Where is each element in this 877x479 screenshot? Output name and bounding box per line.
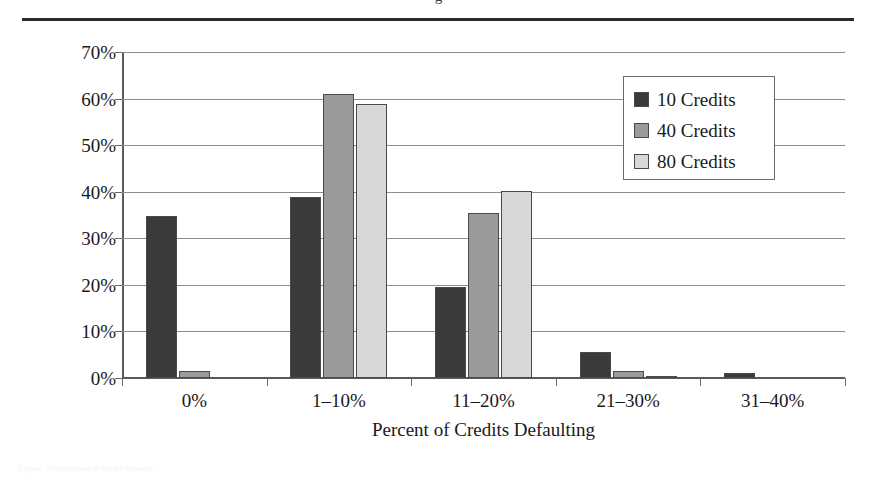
legend-swatch-icon	[634, 154, 649, 169]
y-axis-tick-label: 0%	[60, 369, 116, 388]
x-axis-tick	[267, 378, 268, 386]
y-axis-tick-label: 20%	[60, 276, 116, 295]
y-axis-tick	[115, 285, 122, 286]
y-axis-tick	[115, 331, 122, 332]
bar	[435, 287, 466, 378]
legend-item: 10 Credits	[634, 84, 774, 115]
bar	[468, 213, 499, 378]
y-axis-tick-label: 50%	[60, 136, 116, 155]
y-axis-label-group: 0%10%20%30%40%50%60%70%	[56, 52, 116, 378]
x-axis-label-group: 0%1–10%11–20%21–30%31–40%	[122, 390, 845, 416]
bar	[146, 216, 177, 378]
figure-top-rule	[22, 18, 854, 21]
y-axis-tick	[115, 99, 122, 100]
y-axis-tick-label: 70%	[60, 43, 116, 62]
x-axis-tick-label: 1–10%	[267, 390, 412, 412]
y-axis-tick	[115, 192, 122, 193]
y-axis-tick-label: 60%	[60, 90, 116, 109]
y-axis-line	[122, 52, 124, 378]
x-axis-tick	[122, 378, 123, 386]
legend-swatch-icon	[634, 123, 649, 138]
bar	[646, 376, 677, 378]
gridline	[122, 52, 845, 53]
x-axis-tick	[556, 378, 557, 386]
legend-label: 10 Credits	[657, 90, 736, 109]
bottom-caption-artifact: Figure: Distribution of credit defaults	[18, 463, 348, 473]
bar	[501, 191, 532, 378]
y-axis-tick	[115, 145, 122, 146]
x-axis-tick-label: 0%	[122, 390, 267, 412]
y-axis-tick-label: 30%	[60, 229, 116, 248]
y-axis-tick-label: 10%	[60, 322, 116, 341]
chart-legend: 10 Credits40 Credits80 Credits	[623, 76, 775, 180]
x-axis-tick	[700, 378, 701, 386]
x-axis-tick	[411, 378, 412, 386]
bar	[179, 371, 210, 378]
y-axis-tick	[115, 238, 122, 239]
bar	[356, 104, 387, 378]
clipped-title-fragment: g	[0, 0, 877, 4]
y-axis-tick	[115, 378, 122, 379]
figure-container: g 0%10%20%30%40%50%60%70% Probability 0%…	[0, 0, 877, 479]
bar	[580, 352, 611, 378]
y-axis-tick-label: 40%	[60, 183, 116, 202]
x-axis-title: Percent of Credits Defaulting	[122, 419, 845, 441]
bar	[613, 371, 644, 378]
legend-item: 80 Credits	[634, 146, 774, 177]
legend-item: 40 Credits	[634, 115, 774, 146]
x-axis-tick-label: 11–20%	[411, 390, 556, 412]
x-axis-tick-label: 21–30%	[556, 390, 701, 412]
gridline	[122, 192, 845, 193]
bar	[323, 94, 354, 378]
legend-swatch-icon	[634, 92, 649, 107]
legend-label: 40 Credits	[657, 121, 736, 140]
bar	[290, 197, 321, 378]
legend-label: 80 Credits	[657, 152, 736, 171]
x-axis-tick-label: 31–40%	[700, 390, 845, 412]
y-axis-tick	[115, 52, 122, 53]
x-axis-tick	[845, 378, 846, 386]
bar	[724, 373, 755, 378]
